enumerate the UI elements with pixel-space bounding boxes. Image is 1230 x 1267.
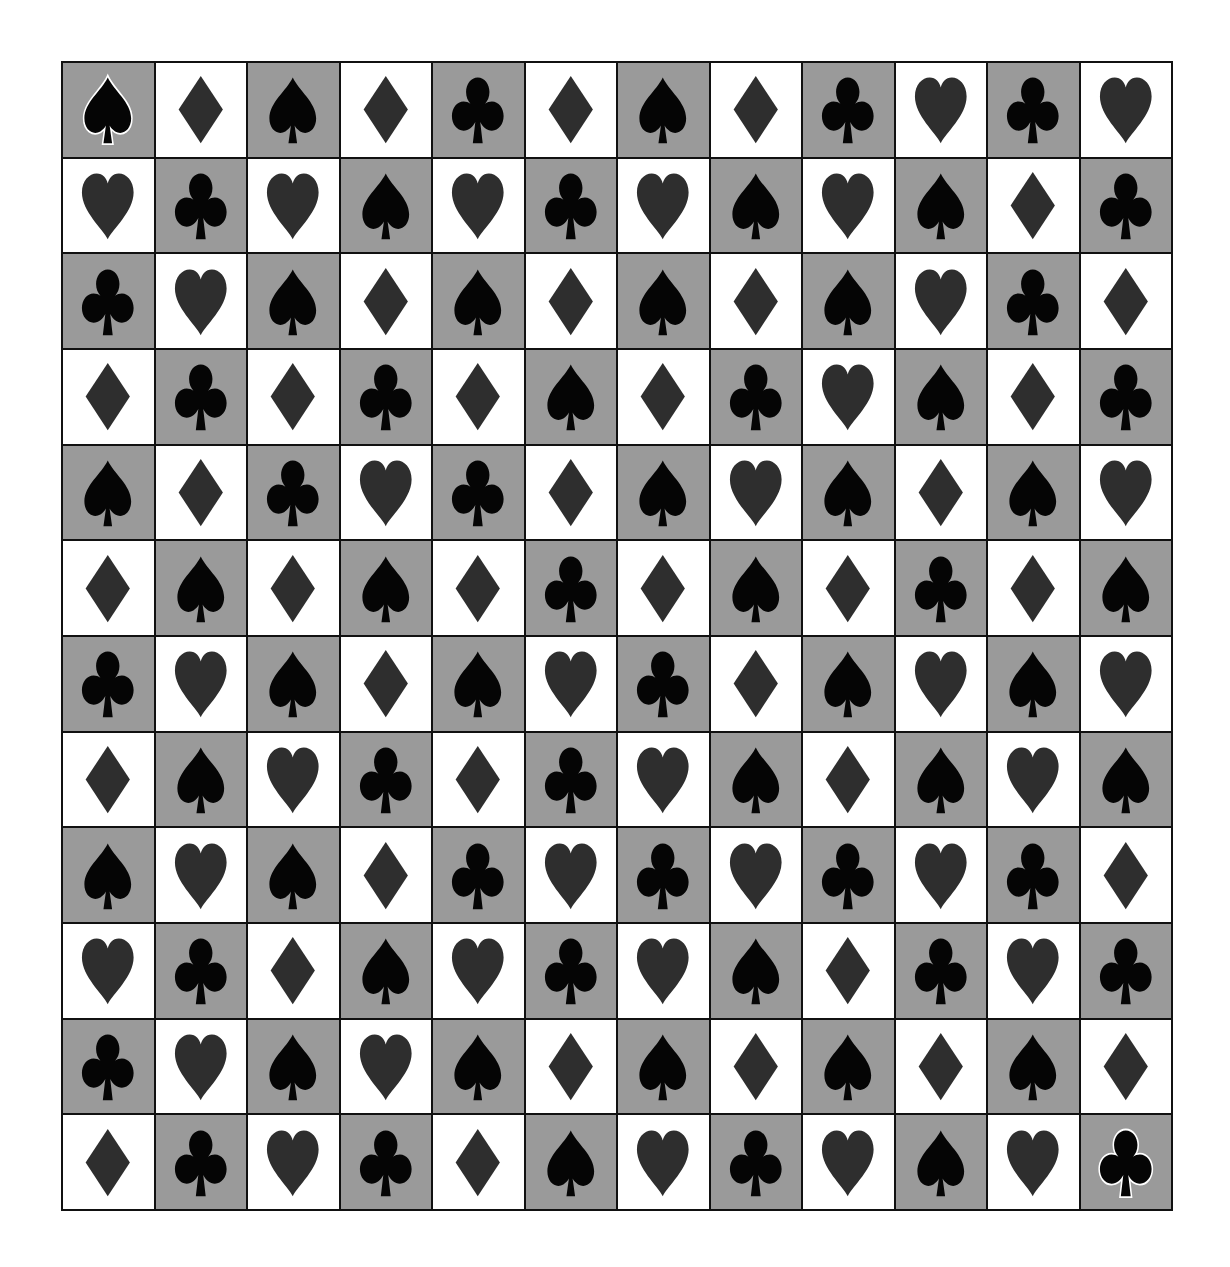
grid-cell-r11-c5[interactable] [433, 1020, 524, 1114]
grid-cell-r9-c10[interactable] [896, 828, 987, 922]
grid-cell-r12-c12[interactable] [1081, 1115, 1172, 1209]
grid-cell-r3-c1[interactable] [63, 254, 154, 348]
grid-cell-r1-c2[interactable] [156, 63, 247, 157]
grid-cell-r3-c5[interactable] [433, 254, 524, 348]
grid-cell-r6-c2[interactable] [156, 541, 247, 635]
grid-cell-r10-c11[interactable] [988, 924, 1079, 1018]
grid-cell-r12-c2[interactable] [156, 1115, 247, 1209]
grid-cell-r8-c12[interactable] [1081, 733, 1172, 827]
grid-cell-r11-c10[interactable] [896, 1020, 987, 1114]
grid-cell-r9-c2[interactable] [156, 828, 247, 922]
grid-cell-r5-c3[interactable] [248, 446, 339, 540]
grid-cell-r9-c5[interactable] [433, 828, 524, 922]
grid-cell-r4-c10[interactable] [896, 350, 987, 444]
grid-cell-r8-c9[interactable] [803, 733, 894, 827]
grid-cell-r4-c9[interactable] [803, 350, 894, 444]
grid-cell-r7-c11[interactable] [988, 637, 1079, 731]
grid-cell-r6-c1[interactable] [63, 541, 154, 635]
grid-cell-r7-c9[interactable] [803, 637, 894, 731]
grid-cell-r5-c8[interactable] [711, 446, 802, 540]
grid-cell-r11-c12[interactable] [1081, 1020, 1172, 1114]
grid-cell-r2-c11[interactable] [988, 159, 1079, 253]
grid-cell-r4-c1[interactable] [63, 350, 154, 444]
grid-cell-r6-c4[interactable] [341, 541, 432, 635]
grid-cell-r4-c5[interactable] [433, 350, 524, 444]
grid-cell-r2-c7[interactable] [618, 159, 709, 253]
grid-cell-r3-c7[interactable] [618, 254, 709, 348]
grid-cell-r2-c12[interactable] [1081, 159, 1172, 253]
grid-cell-r12-c3[interactable] [248, 1115, 339, 1209]
grid-cell-r6-c10[interactable] [896, 541, 987, 635]
grid-cell-r8-c4[interactable] [341, 733, 432, 827]
grid-cell-r4-c2[interactable] [156, 350, 247, 444]
grid-cell-r5-c5[interactable] [433, 446, 524, 540]
grid-cell-r11-c11[interactable] [988, 1020, 1079, 1114]
grid-cell-r12-c11[interactable] [988, 1115, 1079, 1209]
grid-cell-r4-c11[interactable] [988, 350, 1079, 444]
grid-cell-r2-c5[interactable] [433, 159, 524, 253]
grid-cell-r3-c4[interactable] [341, 254, 432, 348]
grid-cell-r1-c3[interactable] [248, 63, 339, 157]
grid-cell-r10-c7[interactable] [618, 924, 709, 1018]
grid-cell-r6-c7[interactable] [618, 541, 709, 635]
grid-cell-r8-c2[interactable] [156, 733, 247, 827]
grid-cell-r6-c6[interactable] [526, 541, 617, 635]
grid-cell-r1-c5[interactable] [433, 63, 524, 157]
grid-cell-r1-c6[interactable] [526, 63, 617, 157]
grid-cell-r9-c11[interactable] [988, 828, 1079, 922]
grid-cell-r1-c4[interactable] [341, 63, 432, 157]
grid-cell-r10-c9[interactable] [803, 924, 894, 1018]
grid-cell-r5-c11[interactable] [988, 446, 1079, 540]
grid-cell-r5-c4[interactable] [341, 446, 432, 540]
grid-cell-r11-c9[interactable] [803, 1020, 894, 1114]
grid-cell-r10-c1[interactable] [63, 924, 154, 1018]
grid-cell-r9-c1[interactable] [63, 828, 154, 922]
grid-cell-r10-c12[interactable] [1081, 924, 1172, 1018]
grid-cell-r7-c4[interactable] [341, 637, 432, 731]
grid-cell-r10-c5[interactable] [433, 924, 524, 1018]
grid-cell-r8-c1[interactable] [63, 733, 154, 827]
grid-cell-r8-c5[interactable] [433, 733, 524, 827]
grid-cell-r12-c1[interactable] [63, 1115, 154, 1209]
grid-cell-r6-c12[interactable] [1081, 541, 1172, 635]
grid-cell-r6-c9[interactable] [803, 541, 894, 635]
grid-cell-r5-c7[interactable] [618, 446, 709, 540]
grid-cell-r10-c3[interactable] [248, 924, 339, 1018]
grid-cell-r7-c2[interactable] [156, 637, 247, 731]
grid-cell-r9-c4[interactable] [341, 828, 432, 922]
grid-cell-r7-c1[interactable] [63, 637, 154, 731]
grid-cell-r7-c6[interactable] [526, 637, 617, 731]
grid-cell-r5-c6[interactable] [526, 446, 617, 540]
grid-cell-r4-c3[interactable] [248, 350, 339, 444]
grid-cell-r4-c6[interactable] [526, 350, 617, 444]
grid-cell-r11-c3[interactable] [248, 1020, 339, 1114]
grid-cell-r1-c7[interactable] [618, 63, 709, 157]
grid-cell-r9-c12[interactable] [1081, 828, 1172, 922]
grid-cell-r8-c6[interactable] [526, 733, 617, 827]
grid-cell-r9-c6[interactable] [526, 828, 617, 922]
grid-cell-r7-c12[interactable] [1081, 637, 1172, 731]
grid-cell-r11-c8[interactable] [711, 1020, 802, 1114]
grid-cell-r7-c7[interactable] [618, 637, 709, 731]
grid-cell-r8-c10[interactable] [896, 733, 987, 827]
grid-cell-r5-c1[interactable] [63, 446, 154, 540]
grid-cell-r4-c7[interactable] [618, 350, 709, 444]
grid-cell-r12-c5[interactable] [433, 1115, 524, 1209]
grid-cell-r8-c7[interactable] [618, 733, 709, 827]
grid-cell-r3-c12[interactable] [1081, 254, 1172, 348]
grid-cell-r12-c6[interactable] [526, 1115, 617, 1209]
grid-cell-r4-c4[interactable] [341, 350, 432, 444]
grid-cell-r6-c11[interactable] [988, 541, 1079, 635]
grid-cell-r3-c10[interactable] [896, 254, 987, 348]
grid-cell-r6-c5[interactable] [433, 541, 524, 635]
grid-cell-r1-c11[interactable] [988, 63, 1079, 157]
grid-cell-r8-c11[interactable] [988, 733, 1079, 827]
grid-cell-r9-c9[interactable] [803, 828, 894, 922]
grid-cell-r8-c3[interactable] [248, 733, 339, 827]
grid-cell-r4-c12[interactable] [1081, 350, 1172, 444]
grid-cell-r12-c4[interactable] [341, 1115, 432, 1209]
grid-cell-r11-c4[interactable] [341, 1020, 432, 1114]
grid-cell-r3-c3[interactable] [248, 254, 339, 348]
grid-cell-r7-c8[interactable] [711, 637, 802, 731]
grid-cell-r7-c10[interactable] [896, 637, 987, 731]
